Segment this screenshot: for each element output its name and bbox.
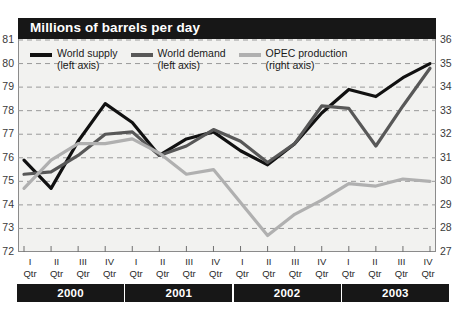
quarter-suffix: Qtr <box>123 268 149 280</box>
series-line-2 <box>24 139 430 236</box>
quarter-suffix: Qtr <box>256 268 282 280</box>
legend-item-1: World demand(left axis) <box>131 48 226 71</box>
left-tick-77: 77 <box>0 127 14 139</box>
quarter-roman: II <box>256 256 282 268</box>
right-tick-31: 31 <box>440 151 456 163</box>
quarter-label-13: IIQtr <box>362 256 388 280</box>
left-tick-75: 75 <box>0 174 14 186</box>
quarter-label-1: IIQtr <box>44 256 70 280</box>
right-tick-35: 35 <box>440 57 456 69</box>
right-tick-29: 29 <box>440 198 456 210</box>
right-tick-33: 33 <box>440 104 456 116</box>
quarter-suffix: Qtr <box>150 268 176 280</box>
quarter-suffix: Qtr <box>44 268 70 280</box>
quarter-roman: I <box>123 256 149 268</box>
left-tick-81: 81 <box>0 33 14 45</box>
legend-label: World supply(left axis) <box>57 48 118 71</box>
quarter-label-9: IIQtr <box>256 256 282 280</box>
quarter-label-15: IVQtr <box>415 256 441 280</box>
quarter-suffix: Qtr <box>335 268 361 280</box>
quarter-roman: IV <box>309 256 335 268</box>
series-line-0 <box>24 64 430 189</box>
title-banner: Millions of barrels per day <box>18 18 436 39</box>
quarter-roman: III <box>282 256 308 268</box>
quarter-label-5: IIQtr <box>150 256 176 280</box>
quarter-label-8: IQtr <box>229 256 255 280</box>
quarter-suffix: Qtr <box>176 268 202 280</box>
left-tick-80: 80 <box>0 57 14 69</box>
quarter-roman: I <box>335 256 361 268</box>
left-tick-73: 73 <box>0 221 14 233</box>
legend-label: World demand(left axis) <box>158 48 226 71</box>
quarter-suffix: Qtr <box>282 268 308 280</box>
quarter-label-10: IIIQtr <box>282 256 308 280</box>
legend-series-name: OPEC production <box>266 47 348 59</box>
quarter-suffix: Qtr <box>229 268 255 280</box>
quarter-roman: III <box>388 256 414 268</box>
quarter-label-12: IQtr <box>335 256 361 280</box>
quarter-roman: I <box>229 256 255 268</box>
year-bar-2002: 2002 <box>234 284 341 302</box>
quarter-label-7: IVQtr <box>203 256 229 280</box>
quarter-label-14: IIIQtr <box>388 256 414 280</box>
legend-label: OPEC production(right axis) <box>266 48 348 71</box>
series-line-1 <box>24 68 430 174</box>
quarter-roman: II <box>44 256 70 268</box>
year-bar-2000: 2000 <box>17 284 124 302</box>
left-tick-79: 79 <box>0 80 14 92</box>
year-bar-2001: 2001 <box>125 284 232 302</box>
year-label: 2002 <box>274 287 301 299</box>
year-label: 2003 <box>382 287 409 299</box>
legend-series-name: World supply <box>57 47 118 59</box>
quarter-roman: II <box>362 256 388 268</box>
quarter-suffix: Qtr <box>17 268 43 280</box>
quarter-suffix: Qtr <box>309 268 335 280</box>
left-tick-78: 78 <box>0 104 14 116</box>
legend-axis-note: (left axis) <box>158 60 226 72</box>
quarter-roman: II <box>150 256 176 268</box>
right-tick-28: 28 <box>440 221 456 233</box>
quarter-suffix: Qtr <box>70 268 96 280</box>
year-bar-2003: 2003 <box>342 284 449 302</box>
quarter-roman: I <box>17 256 43 268</box>
right-tick-32: 32 <box>440 127 456 139</box>
year-axis-bars: 2000200120022003 <box>24 284 434 303</box>
chart-title: Millions of barrels per day <box>30 20 200 35</box>
quarter-suffix: Qtr <box>388 268 414 280</box>
legend-item-2: OPEC production(right axis) <box>239 48 348 71</box>
quarter-label-3: IVQtr <box>97 256 123 280</box>
quarter-axis-labels: IQtrIIQtrIIIQtrIVQtrIQtrIIQtrIIIQtrIVQtr… <box>24 256 434 282</box>
quarter-roman: IV <box>97 256 123 268</box>
x-tick-marks <box>24 246 430 252</box>
legend-swatch-icon <box>239 53 261 57</box>
left-tick-74: 74 <box>0 198 14 210</box>
legend-item-0: World supply(left axis) <box>30 48 118 71</box>
quarter-suffix: Qtr <box>97 268 123 280</box>
quarter-label-11: IVQtr <box>309 256 335 280</box>
quarter-label-4: IQtr <box>123 256 149 280</box>
quarter-roman: IV <box>415 256 441 268</box>
legend-swatch-icon <box>30 53 52 57</box>
right-tick-36: 36 <box>440 33 456 45</box>
quarter-label-2: IIIQtr <box>70 256 96 280</box>
quarter-roman: IV <box>203 256 229 268</box>
legend-swatch-icon <box>131 53 153 57</box>
left-tick-72: 72 <box>0 245 14 257</box>
legend-axis-note: (left axis) <box>57 60 118 72</box>
year-label: 2001 <box>165 287 192 299</box>
quarter-suffix: Qtr <box>362 268 388 280</box>
quarter-suffix: Qtr <box>415 268 441 280</box>
quarter-roman: III <box>176 256 202 268</box>
quarter-label-0: IQtr <box>17 256 43 280</box>
left-tick-76: 76 <box>0 151 14 163</box>
legend-axis-note: (right axis) <box>266 60 348 72</box>
quarter-label-6: IIIQtr <box>176 256 202 280</box>
right-tick-27: 27 <box>440 245 456 257</box>
right-tick-34: 34 <box>440 80 456 92</box>
right-tick-30: 30 <box>440 174 456 186</box>
quarter-suffix: Qtr <box>203 268 229 280</box>
quarter-roman: III <box>70 256 96 268</box>
year-label: 2000 <box>57 287 84 299</box>
legend-series-name: World demand <box>158 47 226 59</box>
